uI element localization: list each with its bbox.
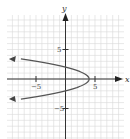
parabola-graph: −5 5 5 −5 x y (0, 0, 130, 139)
y-tick-label-neg5: −5 (54, 105, 64, 113)
y-axis-arrow-icon (63, 13, 69, 21)
x-tick-label-5: 5 (93, 83, 97, 91)
y-tick-label-5: 5 (57, 46, 61, 54)
x-tick-label-neg5: −5 (31, 83, 41, 91)
x-axis-label: x (125, 75, 130, 84)
x-axis-arrow-icon (115, 76, 123, 82)
y-axis-label: y (61, 4, 67, 13)
